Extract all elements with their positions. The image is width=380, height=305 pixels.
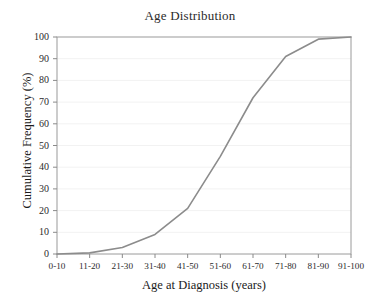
gridlines <box>57 59 351 233</box>
chart-figure: Age Distribution Cumulative Frequency (%… <box>0 0 380 305</box>
y-tick-label: 30 <box>23 184 49 194</box>
x-tick-label: 11-20 <box>79 261 100 271</box>
x-tick-label: 91-100 <box>338 261 364 271</box>
y-tick-label: 70 <box>23 97 49 107</box>
x-tick-label: 51-60 <box>210 261 231 271</box>
x-tick-label: 31-40 <box>144 261 165 271</box>
x-tick-label: 41-50 <box>177 261 198 271</box>
y-tick-label: 10 <box>23 227 49 237</box>
x-tick-label: 81-90 <box>308 261 329 271</box>
y-tick-label: 90 <box>23 54 49 64</box>
x-tick-label: 71-80 <box>275 261 296 271</box>
y-tick-label: 80 <box>23 75 49 85</box>
y-tick-label: 0 <box>23 249 49 259</box>
plot-area <box>0 0 380 305</box>
x-tick-label: 21-30 <box>112 261 133 271</box>
y-tick-label: 60 <box>23 119 49 129</box>
y-tick-label: 100 <box>23 32 49 42</box>
x-axis-ticks <box>57 254 351 258</box>
x-axis-label: Age at Diagnosis (years) <box>57 278 351 293</box>
y-tick-label: 40 <box>23 162 49 172</box>
y-tick-label: 50 <box>23 141 49 151</box>
x-tick-label: 61-70 <box>242 261 263 271</box>
y-axis-ticks <box>53 37 57 254</box>
x-tick-label: 0-10 <box>49 261 66 271</box>
y-tick-label: 20 <box>23 206 49 216</box>
